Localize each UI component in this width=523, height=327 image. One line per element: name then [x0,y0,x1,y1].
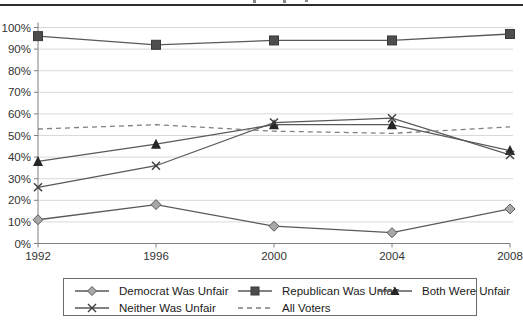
line-chart: 199219962000200420080%10%20%30%40%50%60%… [0,0,523,272]
marker-diamond [269,221,279,231]
x-tick-label: 2000 [261,250,287,262]
chart-legend: Democrat Was Unfair Republican Was Unfai… [63,278,477,316]
legend-label: Democrat Was Unfair [119,285,229,297]
marker-diamond [505,204,515,214]
marker-diamond [33,215,43,225]
x-tick-label: 2004 [379,250,405,262]
legend-label: Neither Was Unfair [119,302,216,314]
marker-square [270,36,279,45]
x-marker-icon [74,302,110,314]
diamond-marker-icon [74,285,110,297]
marker-square [388,36,397,45]
legend-row-1: Democrat Was Unfair Republican Was Unfai… [74,283,476,298]
y-tick-label: 30% [8,173,31,185]
legend-label: All Voters [282,302,331,314]
series-line-2 [38,125,510,162]
marker-square [152,40,161,49]
y-tick-label: 80% [8,65,31,77]
x-tick-label: 2008 [497,250,523,262]
x-tick-label: 1996 [143,250,169,262]
marker-square [34,32,43,41]
legend-label: Both Were Unfair [422,285,510,297]
y-tick-label: 100% [2,22,31,34]
marker-diamond [387,228,397,238]
y-tick-label: 90% [8,43,31,55]
legend-item-all-voters: All Voters [237,302,377,314]
x-tick-label: 1992 [25,250,51,262]
dashed-line-icon [237,302,273,314]
legend-item-republican: Republican Was Unfair [237,285,377,297]
y-tick-label: 10% [8,216,31,228]
y-tick-label: 60% [8,108,31,120]
y-tick-label: 50% [8,130,31,142]
marker-diamond [151,200,161,210]
legend-item-democrat: Democrat Was Unfair [74,285,237,297]
y-tick-label: 0% [14,238,31,250]
legend-row-2: Neither Was Unfair All Voters [74,300,476,315]
y-tick-label: 20% [8,194,31,206]
marker-square [506,29,515,38]
y-tick-label: 40% [8,151,31,163]
square-marker-icon [237,285,273,297]
legend-item-neither: Neither Was Unfair [74,302,237,314]
triangle-marker-icon [377,285,413,297]
y-tick-label: 70% [8,86,31,98]
legend-item-both: Both Were Unfair [377,285,510,297]
